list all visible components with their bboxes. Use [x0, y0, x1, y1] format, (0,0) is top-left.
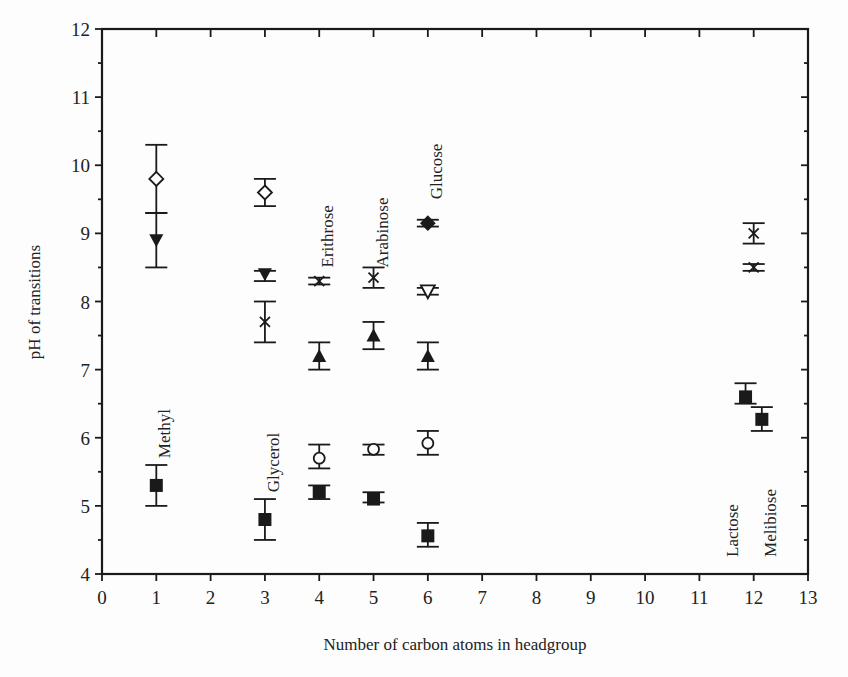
- square-filled-icon: [421, 529, 434, 542]
- data-point: [743, 262, 765, 272]
- square-filled-icon: [313, 486, 326, 499]
- x-tick-label: 7: [477, 587, 487, 608]
- circle-open-icon: [422, 438, 433, 449]
- data-point: [417, 285, 439, 298]
- triangle-up-filled-icon: [421, 349, 435, 362]
- data-point: [254, 499, 276, 540]
- annotation-label: Lactose: [723, 504, 742, 557]
- square-filled-icon: [755, 413, 768, 426]
- triangle-up-filled-icon: [367, 329, 381, 342]
- y-tick-label: 6: [81, 428, 91, 449]
- square-filled-icon: [367, 493, 380, 506]
- x-tick-label: 3: [260, 587, 270, 608]
- x-tick-label: 1: [152, 587, 162, 608]
- data-point: [417, 523, 439, 547]
- annotation-label: Melibiose: [761, 489, 780, 557]
- square-filled-icon: [739, 390, 752, 403]
- triangle-up-filled-icon: [312, 349, 326, 362]
- x-tick-label: 8: [532, 587, 542, 608]
- x-tick-label: 2: [206, 587, 216, 608]
- y-tick-label: 5: [81, 496, 91, 517]
- x-tick-label: 6: [423, 587, 433, 608]
- diamond-filled-icon: [421, 216, 435, 230]
- annotation-label: Erithrose: [318, 205, 337, 267]
- data-point: [254, 302, 276, 343]
- data-point: [735, 383, 757, 403]
- data-point: [363, 322, 385, 349]
- data-point: [363, 444, 385, 455]
- data-point: [145, 145, 167, 213]
- y-tick-label: 11: [72, 87, 90, 108]
- circle-open-icon: [314, 453, 325, 464]
- x-axis-label: Number of carbon atoms in headgroup: [324, 635, 587, 654]
- annotations: MethylGlycerolErithroseArabinoseGlucoseL…: [155, 144, 780, 557]
- y-tick-label: 10: [71, 155, 90, 176]
- data-point: [743, 223, 765, 243]
- data-point: [363, 267, 385, 287]
- x-tick-label: 5: [369, 587, 379, 608]
- x-tick-label: 10: [636, 587, 655, 608]
- square-filled-icon: [258, 513, 271, 526]
- data-point: [308, 445, 330, 469]
- x-tick-label: 12: [744, 587, 763, 608]
- data-point: [417, 431, 439, 455]
- circle-open-icon: [368, 444, 379, 455]
- diamond-open-icon: [149, 172, 163, 186]
- data-point: [363, 492, 385, 505]
- data-points: [145, 145, 773, 547]
- data-point: [308, 342, 330, 369]
- x-tick-label: 9: [586, 587, 596, 608]
- data-point: [145, 213, 167, 268]
- data-point: [417, 342, 439, 369]
- x-tick-label: 0: [97, 587, 107, 608]
- data-point: [145, 465, 167, 506]
- annotation-label: Arabinose: [373, 198, 392, 268]
- data-point: [308, 485, 330, 499]
- y-axis-label: pH of transitions: [25, 245, 44, 359]
- y-tick-label: 7: [81, 360, 91, 381]
- annotation-label: Glycerol: [264, 432, 283, 492]
- y-tick-label: 8: [81, 292, 91, 313]
- annotation-label: Methyl: [155, 409, 174, 458]
- triangle-down-filled-icon: [258, 268, 272, 281]
- x-tick-label: 4: [314, 587, 324, 608]
- chart: 012345678910111213456789101112 MethylGly…: [0, 0, 848, 677]
- data-point: [254, 268, 276, 281]
- y-tick-label: 12: [71, 19, 90, 40]
- data-point: [751, 407, 773, 431]
- diamond-open-icon: [258, 186, 272, 200]
- plot-frame: [102, 29, 808, 574]
- square-filled-icon: [150, 479, 163, 492]
- annotation-label: Glucose: [427, 144, 446, 200]
- data-point: [417, 216, 439, 230]
- y-tick-label: 9: [81, 223, 91, 244]
- data-point: [308, 276, 330, 286]
- triangle-down-filled-icon: [149, 234, 163, 247]
- triangle-down-open-icon: [421, 285, 435, 298]
- axes: 012345678910111213456789101112: [71, 19, 818, 608]
- y-tick-label: 4: [81, 564, 91, 585]
- x-tick-label: 11: [690, 587, 708, 608]
- data-point: [254, 179, 276, 206]
- x-tick-label: 13: [799, 587, 818, 608]
